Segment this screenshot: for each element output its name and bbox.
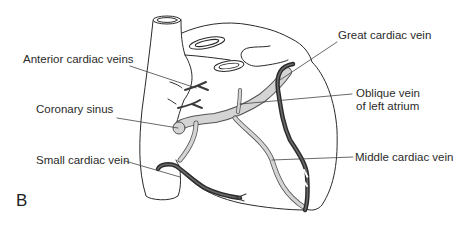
label-anterior-cardiac-veins: Anterior cardiac veins — [23, 52, 134, 66]
panel-letter: B — [16, 191, 27, 211]
label-great-cardiac-vein: Great cardiac vein — [338, 28, 431, 42]
label-oblique-vein-line1: Oblique vein — [356, 86, 420, 100]
coronary-sinus-drawing — [173, 72, 305, 208]
label-small-cardiac-vein: Small cardiac vein — [36, 153, 129, 167]
cardiac-veins-diagram: Anterior cardiac veins Coronary sinus Sm… — [0, 0, 463, 231]
small-cardiac-vein-drawing — [158, 164, 246, 201]
vessel-openings — [168, 34, 245, 104]
label-middle-cardiac-vein: Middle cardiac vein — [355, 150, 453, 164]
label-coronary-sinus: Coronary sinus — [36, 102, 113, 116]
label-oblique-vein-line2: of left atrium — [356, 99, 419, 113]
